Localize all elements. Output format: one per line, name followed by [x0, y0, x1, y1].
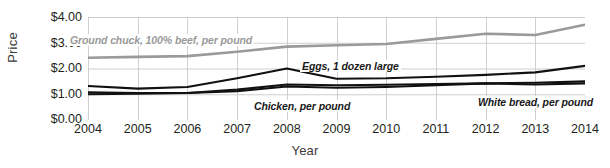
x-tick-2014: 2014 [562, 122, 608, 136]
y-axis-title: Price [5, 18, 20, 78]
x-tick-2004: 2004 [65, 122, 111, 136]
y-tick-2: $2.00 [38, 61, 82, 75]
x-tick-2008: 2008 [264, 122, 310, 136]
y-tick-4: $4.00 [38, 10, 82, 24]
x-tick-2009: 2009 [314, 122, 360, 136]
series-label-ground-chuck: Ground chuck, 100% beef, per pound [68, 34, 254, 46]
x-axis-title: Year [0, 143, 610, 158]
series-label-eggs: Eggs, 1 dozen large [300, 60, 401, 72]
series-label-white-bread: White bread, per pound [476, 96, 595, 108]
x-tick-2011: 2011 [413, 122, 459, 136]
series-label-chicken: Chicken, per pound [252, 100, 352, 112]
price-line-chart: Price $4.00 $3.00 $2.00 $1.00 $0.00 2004… [0, 0, 610, 168]
x-tick-2010: 2010 [363, 122, 409, 136]
x-tick-2005: 2005 [115, 122, 161, 136]
y-tick-1: $1.00 [38, 87, 82, 101]
x-tick-2012: 2012 [463, 122, 509, 136]
x-tick-2013: 2013 [512, 122, 558, 136]
x-tick-2007: 2007 [214, 122, 260, 136]
x-tick-2006: 2006 [164, 122, 210, 136]
